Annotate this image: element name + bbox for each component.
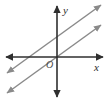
coordinate-plane-svg: y x O: [0, 0, 109, 103]
coordinate-plane-figure: y x O: [0, 0, 109, 103]
y-axis-label: y: [62, 4, 68, 16]
line-upper: [7, 5, 101, 73]
line-upper-stroke: [7, 5, 101, 73]
line-lower: [7, 25, 101, 93]
x-axis-label: x: [93, 61, 99, 73]
origin-label: O: [46, 59, 53, 70]
line-lower-stroke: [7, 25, 101, 93]
